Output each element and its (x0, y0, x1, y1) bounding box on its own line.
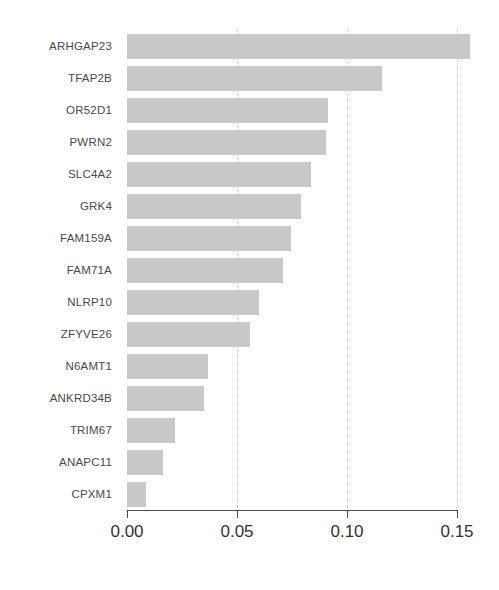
bar-fill (127, 418, 175, 443)
bar-fill (127, 482, 146, 507)
bar-fill (127, 322, 250, 347)
x-tick (347, 510, 348, 518)
category-label: CPXM1 (71, 482, 112, 507)
category-label: PWRN2 (69, 130, 112, 155)
bar-fill (127, 290, 259, 315)
category-label: TFAP2B (68, 66, 112, 91)
bar (127, 98, 328, 123)
plot-area (127, 28, 457, 510)
bar-fill (127, 194, 301, 219)
bar (127, 354, 208, 379)
bar (127, 386, 204, 411)
bar-fill (127, 226, 291, 251)
category-label: GRK4 (80, 194, 112, 219)
bar (127, 450, 163, 475)
category-label: N6AMT1 (65, 354, 112, 379)
category-label: ZFYVE26 (61, 322, 112, 347)
x-tick-label: 0.05 (220, 522, 253, 542)
category-label: FAM71A (67, 258, 112, 283)
bar (127, 418, 175, 443)
category-label: ARHGAP23 (49, 34, 112, 59)
bar (127, 226, 291, 251)
bar (127, 482, 146, 507)
bar (127, 130, 326, 155)
x-tick (237, 510, 238, 518)
bar (127, 322, 250, 347)
category-label: ANAPC11 (59, 450, 112, 475)
category-label: SLC4A2 (68, 162, 112, 187)
x-tick-label: 0.15 (440, 522, 473, 542)
bar-fill (127, 354, 208, 379)
bar (127, 162, 311, 187)
bar-fill (127, 34, 470, 59)
bar-fill (127, 450, 163, 475)
bar-fill (127, 162, 311, 187)
category-label: TRIM67 (70, 418, 112, 443)
x-axis (127, 510, 457, 511)
bar (127, 34, 470, 59)
x-tick-label: 0.00 (110, 522, 143, 542)
bar-fill (127, 130, 326, 155)
x-tick (127, 510, 128, 518)
bar (127, 258, 283, 283)
bar-series (127, 28, 457, 510)
category-label: OR52D1 (66, 98, 112, 123)
bar (127, 66, 382, 91)
category-label: NLRP10 (67, 290, 112, 315)
gridline (457, 28, 459, 510)
bar-fill (127, 66, 382, 91)
category-label: FAM159A (60, 226, 112, 251)
bar (127, 290, 259, 315)
x-tick-label: 0.10 (330, 522, 363, 542)
bar-fill (127, 386, 204, 411)
category-label: ANKRD34B (50, 386, 112, 411)
horizontal-bar-chart: ARHGAP23TFAP2BOR52D1PWRN2SLC4A2GRK4FAM15… (0, 0, 499, 590)
bar (127, 194, 301, 219)
x-tick (457, 510, 458, 518)
category-axis-labels: ARHGAP23TFAP2BOR52D1PWRN2SLC4A2GRK4FAM15… (0, 28, 120, 510)
bar-fill (127, 98, 328, 123)
bar-fill (127, 258, 283, 283)
